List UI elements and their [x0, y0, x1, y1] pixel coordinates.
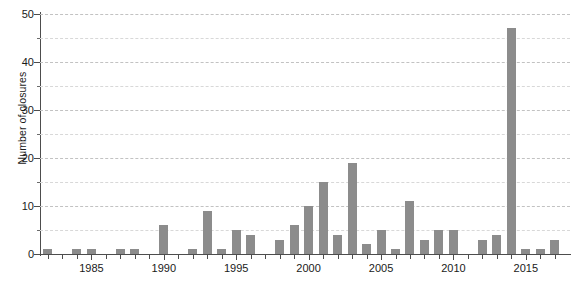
x-tick-2015 — [526, 255, 527, 260]
y-tick-10 — [34, 206, 40, 207]
y-tick-0 — [34, 254, 40, 255]
bar-2002 — [333, 235, 342, 254]
bar-2013 — [492, 235, 501, 254]
bar-2001 — [319, 182, 328, 254]
gridline-y-50 — [40, 14, 570, 15]
x-tick-1996 — [251, 255, 252, 259]
y-tick-label-30: 30 — [0, 104, 34, 116]
x-tick-2009 — [439, 255, 440, 259]
x-tick-label-2005: 2005 — [369, 262, 393, 274]
bar-1995 — [232, 230, 241, 254]
x-tick-2013 — [497, 255, 498, 259]
bar-1988 — [130, 249, 139, 254]
bar-1985 — [87, 249, 96, 254]
x-tick-label-2000: 2000 — [296, 262, 320, 274]
x-tick-1999 — [294, 255, 295, 259]
x-tick-2001 — [323, 255, 324, 259]
plot-area — [40, 14, 570, 254]
gridline-y-40 — [40, 62, 570, 63]
bar-2017 — [550, 240, 559, 254]
x-tick-2016 — [540, 255, 541, 259]
bar-2004 — [362, 244, 371, 254]
bar-2009 — [434, 230, 443, 254]
x-tick-1984 — [77, 255, 78, 259]
y-tick-40 — [34, 62, 40, 63]
bar-1982 — [43, 249, 52, 254]
x-tick-1994 — [222, 255, 223, 259]
y-tick-5 — [37, 230, 41, 231]
bar-2014 — [507, 28, 516, 254]
x-tick-2005 — [381, 255, 382, 260]
x-tick-2010 — [453, 255, 454, 260]
x-tick-2006 — [396, 255, 397, 259]
y-tick-35 — [37, 86, 41, 87]
x-tick-1983 — [62, 255, 63, 259]
x-tick-2011 — [468, 255, 469, 259]
bar-2010 — [449, 230, 458, 254]
gridline-y-35 — [40, 86, 570, 87]
x-tick-1986 — [106, 255, 107, 259]
y-tick-label-50: 50 — [0, 8, 34, 20]
bar-2012 — [478, 240, 487, 254]
x-tick-2007 — [410, 255, 411, 259]
x-tick-2003 — [352, 255, 353, 259]
y-tick-30 — [34, 110, 40, 111]
y-tick-label-10: 10 — [0, 200, 34, 212]
y-tick-label-40: 40 — [0, 56, 34, 68]
x-tick-2012 — [482, 255, 483, 259]
x-tick-2000 — [309, 255, 310, 260]
bar-2015 — [521, 249, 530, 254]
y-tick-label-0: 0 — [0, 248, 34, 260]
gridline-y-15 — [40, 182, 570, 183]
x-tick-1992 — [193, 255, 194, 259]
y-tick-50 — [34, 14, 40, 15]
bar-1999 — [290, 225, 299, 254]
x-tick-1991 — [178, 255, 179, 259]
bar-2007 — [405, 201, 414, 254]
bar-1992 — [188, 249, 197, 254]
x-tick-2008 — [424, 255, 425, 259]
bar-1998 — [275, 240, 284, 254]
x-tick-1997 — [265, 255, 266, 259]
x-tick-1993 — [207, 255, 208, 259]
x-tick-1987 — [120, 255, 121, 259]
bar-2008 — [420, 240, 429, 254]
y-tick-label-20: 20 — [0, 152, 34, 164]
y-tick-15 — [37, 182, 41, 183]
x-tick-2014 — [511, 255, 512, 259]
y-tick-20 — [34, 158, 40, 159]
x-tick-1995 — [236, 255, 237, 260]
bar-1984 — [72, 249, 81, 254]
x-tick-label-1990: 1990 — [152, 262, 176, 274]
bar-chart: Number of closures 010203040501985199019… — [0, 0, 575, 284]
x-tick-1982 — [48, 255, 49, 259]
bar-2016 — [536, 249, 545, 254]
bar-2006 — [391, 249, 400, 254]
x-tick-1998 — [280, 255, 281, 259]
bar-1994 — [217, 249, 226, 254]
x-tick-1985 — [91, 255, 92, 260]
gridline-y-25 — [40, 134, 570, 135]
gridline-y-30 — [40, 110, 570, 111]
gridline-y-45 — [40, 38, 570, 39]
bar-1987 — [116, 249, 125, 254]
x-tick-2002 — [338, 255, 339, 259]
x-tick-label-2010: 2010 — [441, 262, 465, 274]
x-tick-label-1985: 1985 — [79, 262, 103, 274]
y-tick-25 — [37, 134, 41, 135]
gridline-y-20 — [40, 158, 570, 159]
x-tick-label-2015: 2015 — [514, 262, 538, 274]
bar-2000 — [304, 206, 313, 254]
bar-1996 — [246, 235, 255, 254]
bar-2005 — [377, 230, 386, 254]
x-tick-2017 — [555, 255, 556, 259]
bar-2003 — [348, 163, 357, 254]
x-tick-1988 — [135, 255, 136, 259]
x-tick-label-1995: 1995 — [224, 262, 248, 274]
x-tick-1990 — [164, 255, 165, 260]
y-tick-45 — [37, 38, 41, 39]
x-tick-1989 — [149, 255, 150, 259]
bar-1993 — [203, 211, 212, 254]
bar-1990 — [159, 225, 168, 254]
x-tick-2004 — [367, 255, 368, 259]
